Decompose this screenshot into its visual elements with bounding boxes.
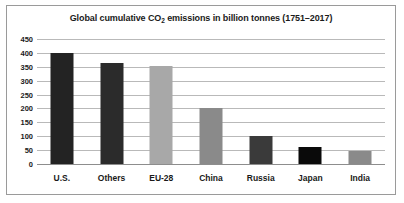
chart-title-suffix: emissions in billion tonnes (1751–2017) <box>165 13 333 23</box>
bar-slot-u-s[interactable]: U.S. <box>37 39 87 164</box>
bar-series: U.S.OthersEU-28ChinaRussiaJapanIndia <box>37 39 385 164</box>
bar-russia[interactable] <box>249 136 272 164</box>
bar-u-s[interactable] <box>50 53 73 164</box>
bar-slot-others[interactable]: Others <box>87 39 137 164</box>
x-axis-tick-label: EU-28 <box>149 173 173 183</box>
y-axis-tick-label: 0 <box>29 160 33 169</box>
y-axis-tick-label: 400 <box>20 48 33 57</box>
bar-eu-28[interactable] <box>150 66 173 164</box>
y-axis-tick-label: 100 <box>20 132 33 141</box>
bar-others[interactable] <box>100 63 123 164</box>
x-axis-tick-label: China <box>199 173 223 183</box>
bar-slot-eu-28[interactable]: EU-28 <box>136 39 186 164</box>
plot-area: 450400350300250200150100500 U.S.OthersEU… <box>37 39 385 164</box>
bar-slot-india[interactable]: India <box>335 39 385 164</box>
y-axis-tick-label: 350 <box>20 62 33 71</box>
x-axis-tick-label: Russia <box>247 173 275 183</box>
bar-slot-china[interactable]: China <box>186 39 236 164</box>
bar-slot-japan[interactable]: Japan <box>286 39 336 164</box>
y-axis-tick-label: 300 <box>20 76 33 85</box>
x-axis-tick-label: U.S. <box>54 173 71 183</box>
x-axis-line <box>37 164 385 165</box>
chart-title-subscript: 2 <box>161 17 165 24</box>
bar-china[interactable] <box>199 108 222 164</box>
x-axis-tick-label: India <box>350 173 370 183</box>
bar-india[interactable] <box>349 151 372 164</box>
chart-title-prefix: Global cumulative CO <box>70 13 162 23</box>
bar-slot-russia[interactable]: Russia <box>236 39 286 164</box>
y-axis-tick-label: 200 <box>20 104 33 113</box>
chart-frame: Global cumulative CO2 emissions in billi… <box>6 5 396 195</box>
y-axis-tick-label: 450 <box>20 35 33 44</box>
y-axis-tick-label: 250 <box>20 90 33 99</box>
bar-japan[interactable] <box>299 147 322 164</box>
x-axis-tick-label: Others <box>98 173 125 183</box>
y-axis-tick-label: 50 <box>25 146 33 155</box>
x-axis-tick-label: Japan <box>298 173 323 183</box>
y-axis-tick-label: 150 <box>20 118 33 127</box>
chart-title: Global cumulative CO2 emissions in billi… <box>7 13 395 23</box>
